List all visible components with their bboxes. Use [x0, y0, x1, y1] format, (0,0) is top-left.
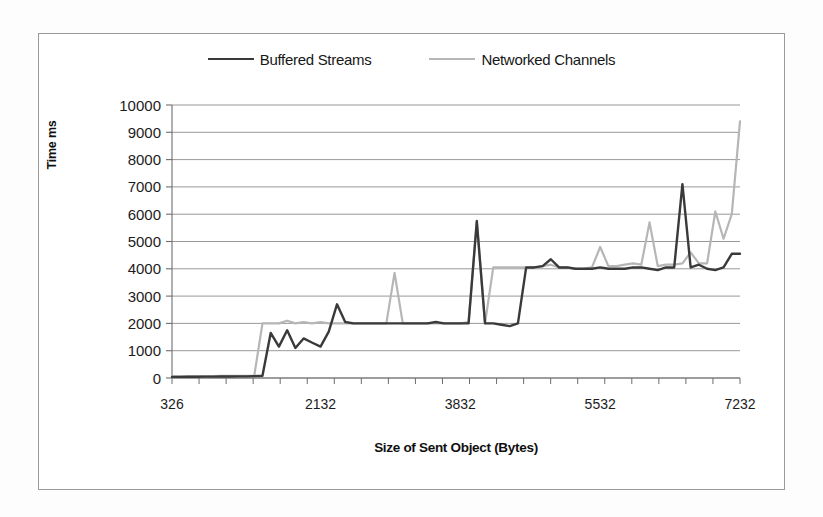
y-tick-label: 5000	[128, 233, 161, 250]
y-tick-label: 7000	[128, 178, 161, 195]
y-tick-label: 6000	[128, 206, 161, 223]
y-tick-label: 0	[153, 370, 161, 387]
x-tick-label: 2132	[305, 396, 336, 412]
y-tick-label: 3000	[128, 288, 161, 305]
y-tick-label: 1000	[128, 342, 161, 359]
y-tick-labels: 0100020003000400050006000700080009000100…	[119, 97, 161, 387]
x-axis	[172, 378, 740, 384]
x-tick-labels: 3262132383255327232	[160, 396, 755, 412]
series-line-buffered-streams	[172, 184, 740, 377]
x-tick-label: 7232	[724, 396, 755, 412]
x-tick-label: 326	[160, 396, 184, 412]
y-axis	[166, 105, 172, 378]
figure-root: Buffered Streams Networked Channels Time…	[0, 0, 823, 517]
x-tick-label: 5532	[585, 396, 616, 412]
plot-area: 0100020003000400050006000700080009000100…	[0, 0, 823, 517]
y-tick-label: 8000	[128, 151, 161, 168]
y-tick-label: 2000	[128, 315, 161, 332]
y-tick-label: 4000	[128, 260, 161, 277]
gridlines	[172, 105, 740, 378]
y-tick-label: 10000	[119, 97, 161, 114]
x-tick-label: 3832	[445, 396, 476, 412]
y-tick-label: 9000	[128, 124, 161, 141]
